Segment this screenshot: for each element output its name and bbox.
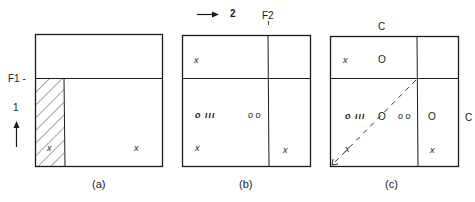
f2-boundary (268, 35, 269, 167)
caption-a: (a) (92, 178, 105, 190)
cluster-o-pair: o o (248, 111, 261, 120)
dimension-1-label: 1 (13, 103, 19, 113)
marker-x: x (195, 144, 200, 153)
marker-x: x (430, 146, 435, 155)
marker-circle: O (378, 112, 386, 122)
c-boundary (417, 36, 418, 167)
caption-c: (c) (385, 178, 398, 190)
f1-label: F1 - (8, 74, 26, 84)
marker-x: x (47, 144, 52, 153)
c-top-label: C (378, 22, 385, 32)
caption-b: (b) (239, 178, 252, 190)
marker-x: x (194, 56, 199, 65)
panel-b-frame (183, 36, 311, 167)
cluster-o-bars: o ııı (195, 111, 216, 120)
marker-circle: O (428, 112, 436, 122)
c-right-label: C (465, 113, 472, 123)
cluster-o-pair: o o (398, 112, 411, 121)
f2-label: F2 (262, 11, 274, 21)
diagram-canvas (0, 0, 475, 202)
cluster-o-bars: o ııı (345, 112, 366, 121)
marker-x: x (134, 144, 139, 153)
marker-x: x (343, 56, 348, 65)
marker-x: x (283, 146, 288, 155)
dimension-2-label: 2 (230, 9, 236, 19)
marker-circle: O (378, 55, 386, 65)
marker-x: x (345, 145, 350, 154)
panel-a (14, 35, 164, 167)
panel-b (182, 12, 311, 168)
